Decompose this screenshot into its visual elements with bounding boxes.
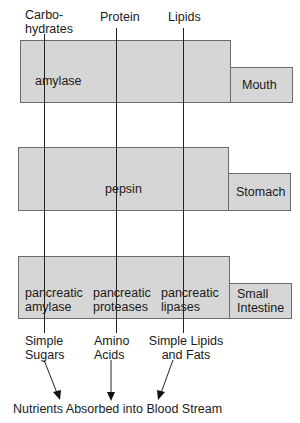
product-label-line: Simple Lipids <box>146 334 226 348</box>
product-label-line: and Fats <box>146 348 226 362</box>
lipid-arrow-shaft <box>161 360 173 393</box>
sugar-arrow-shaft <box>44 360 57 393</box>
product-label-line: Acids <box>94 348 129 362</box>
product-label-line: Amino <box>94 334 129 348</box>
absorption-footer-label: Nutrients Absorbed into Blood Stream <box>13 402 222 416</box>
product-amino-acids-label: Amino Acids <box>94 334 129 362</box>
arrow-head-icon <box>157 390 165 400</box>
product-simple-lipids-label: Simple Lipids and Fats <box>146 334 226 362</box>
product-simple-sugars-label: Simple Sugars <box>25 334 65 362</box>
arrow-head-icon <box>53 390 61 400</box>
product-label-line: Sugars <box>25 348 65 362</box>
arrow-head-icon <box>107 392 115 401</box>
product-label-line: Simple <box>25 334 65 348</box>
